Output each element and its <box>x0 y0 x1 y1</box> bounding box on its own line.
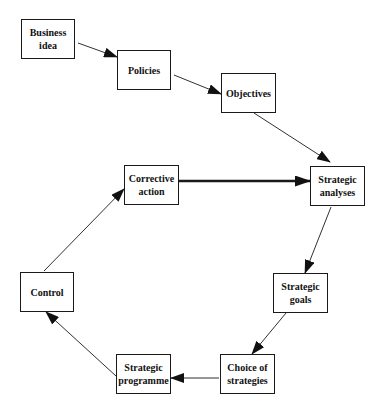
node-label: Policies <box>128 64 160 77</box>
node-label: Corrective action <box>129 172 174 198</box>
node-control: Control <box>20 272 74 312</box>
node-objectives: Objectives <box>221 73 276 113</box>
node-business-idea: Business idea <box>21 19 75 59</box>
arrow-control-to-corrective-action <box>44 189 124 271</box>
node-label: Choice of strategies <box>227 361 268 387</box>
node-choice-of-strategies: Choice of strategies <box>220 354 275 394</box>
arrow-strategic-analyses-to-strategic-goals <box>305 207 331 273</box>
node-label: Business idea <box>30 26 67 52</box>
node-policies: Policies <box>117 50 171 90</box>
arrow-strategic-goals-to-choice-of-strategies <box>252 313 286 354</box>
diagram-canvas <box>0 0 381 413</box>
arrow-strategic-programme-to-control <box>46 312 116 376</box>
node-label: Objectives <box>226 87 271 100</box>
node-corrective-action: Corrective action <box>124 165 179 205</box>
node-strategic-programme: Strategic programme <box>116 354 171 394</box>
node-label: Control <box>30 286 63 299</box>
node-label: Strategic goals <box>281 280 319 306</box>
node-strategic-goals: Strategic goals <box>273 273 328 313</box>
node-strategic-analyses: Strategic analyses <box>310 166 365 206</box>
arrow-business-idea-to-policies <box>78 43 117 57</box>
node-label: Strategic programme <box>118 361 168 387</box>
node-label: Strategic analyses <box>318 173 356 199</box>
arrow-objectives-to-strategic-analyses <box>254 113 330 162</box>
arrow-policies-to-objectives <box>174 75 221 94</box>
edges-layer <box>44 43 331 378</box>
